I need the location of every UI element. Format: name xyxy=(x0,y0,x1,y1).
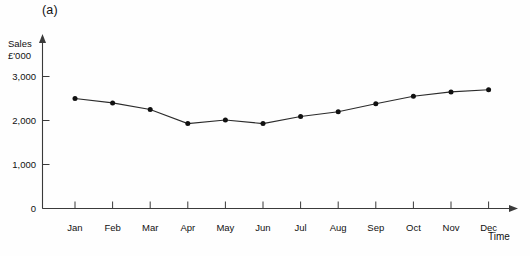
data-point-marker xyxy=(148,107,153,112)
data-point-marker xyxy=(411,94,416,99)
data-point-marker xyxy=(73,96,78,101)
sales-line-series xyxy=(75,90,489,124)
x-axis-arrow-icon xyxy=(509,205,518,212)
data-point-marker xyxy=(373,101,378,106)
y-axis-ticks xyxy=(43,77,50,209)
data-point-marker xyxy=(110,100,115,105)
x-axis-ticks xyxy=(75,202,489,209)
y-axis-arrow-icon xyxy=(39,34,46,43)
plot-area xyxy=(0,0,530,256)
data-point-marker xyxy=(261,121,266,126)
data-point-marker xyxy=(486,87,491,92)
data-point-marker xyxy=(449,89,454,94)
data-point-marker xyxy=(185,121,190,126)
data-point-marker xyxy=(298,114,303,119)
chart-figure: (a) Sales £'000 Time 01,0002,0003,000 Ja… xyxy=(0,0,530,256)
data-point-marker xyxy=(223,118,228,123)
data-point-marker xyxy=(336,109,341,114)
